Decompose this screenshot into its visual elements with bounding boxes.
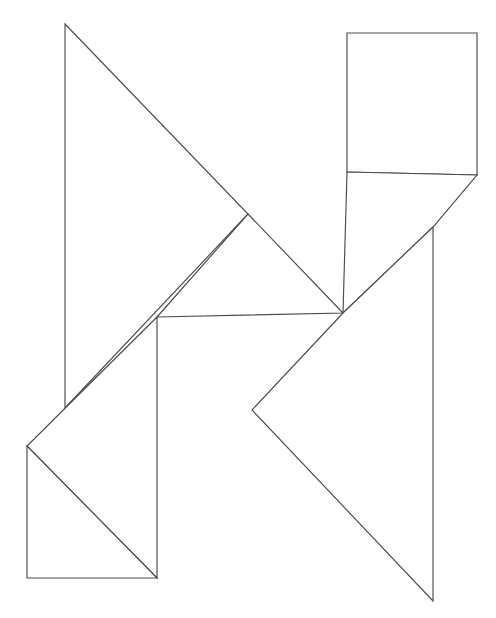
drawing-canvas	[0, 0, 496, 618]
tangram-figure	[0, 0, 496, 618]
tangram-pieces-group	[27, 24, 477, 601]
tangram-piece-parallelogram-upper-right	[347, 33, 477, 175]
